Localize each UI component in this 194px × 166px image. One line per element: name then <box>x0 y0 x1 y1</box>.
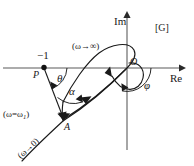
omega-one-prefix: (ω=ω <box>3 109 23 119</box>
origin-label: O <box>130 57 137 67</box>
plane-label: [G] <box>155 23 169 33</box>
theta-angle-label: θ <box>57 73 62 84</box>
locus-main-loop <box>63 45 135 121</box>
critical-point-value-label: −1 <box>37 50 49 61</box>
imaginary-axis-label: Im <box>114 16 126 27</box>
angle-arc-group <box>53 68 152 103</box>
omega-infinity-annotation: (ω→∞) <box>72 42 99 51</box>
nyquist-diagram: Im Re O −1 P A θ α φ [G] (ω→∞) (ω=ω1) (ω… <box>0 0 194 166</box>
omega-one-suffix: ) <box>26 109 29 119</box>
phi-angle-label: φ <box>144 80 150 91</box>
omega-one-subscript: 1 <box>23 113 26 120</box>
plane-label-text: [G] <box>155 22 169 33</box>
alpha-angle-label: α <box>69 86 75 97</box>
alpha-arc-arrowhead <box>76 94 83 102</box>
omega-one-annotation: (ω=ω1) <box>3 110 29 119</box>
curve-point-A-label: A <box>64 122 70 132</box>
vector-P-to-A <box>44 68 67 121</box>
real-axis-arrow <box>179 64 186 71</box>
real-axis-label: Re <box>170 73 182 84</box>
critical-point-name-label: P <box>33 70 39 80</box>
critical-point-marker <box>41 65 46 70</box>
locus-direction-arrows <box>58 67 112 121</box>
